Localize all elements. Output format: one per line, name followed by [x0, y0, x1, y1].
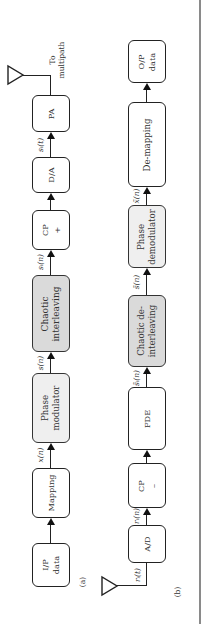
block-demapping: De-mapping: [128, 102, 166, 187]
panel-a-label: (a): [78, 577, 87, 587]
block-label: Chaotic de- interleaving: [136, 305, 158, 358]
arrow-line: [50, 448, 51, 468]
arrow-line: [50, 357, 51, 373]
block-pa: PA: [32, 95, 70, 132]
arrowhead-up-icon: [47, 193, 55, 200]
signal-label-si-t: sᵢ(t): [36, 138, 45, 152]
signal-label-ri-t: rᵢ(t): [133, 568, 142, 582]
block-label: Mapping: [46, 475, 56, 512]
block-fde: FDE: [128, 387, 166, 450]
receive-antenna-icon: [100, 575, 120, 597]
arrowhead-up-icon: [143, 508, 151, 515]
arrow-line: [146, 88, 147, 102]
antenna-feed-line: [116, 585, 147, 586]
arrowhead-up-icon: [47, 352, 55, 359]
signal-label-s-tilde-i-n: s̃ᵢ(n): [132, 370, 141, 386]
arrowhead-up-icon: [143, 187, 151, 194]
signal-label-x-tilde-n: x̃(n): [132, 189, 141, 204]
block-chaotic-interleaving: Chaotic interleaving: [32, 275, 70, 352]
signal-label-s-n: s(n): [36, 356, 45, 371]
signal-label-si-n: sᵢ(n): [36, 254, 45, 270]
block-cp-remove: CP –: [128, 463, 166, 508]
block-label: CP –: [135, 480, 159, 492]
block-phase-demodulator: Phase demodulator: [128, 205, 166, 268]
block-mapping: Mapping: [32, 468, 70, 518]
block-cp-add: CP +: [32, 210, 70, 250]
signal-label-x-n: x(n): [36, 448, 45, 463]
block-op-data: O/P data: [128, 40, 166, 83]
arrow-line: [50, 523, 51, 543]
arrowhead-up-icon: [47, 132, 55, 139]
arrow-line: [50, 255, 51, 275]
page-edge-rule: [199, 0, 201, 624]
arrow-line: [50, 137, 51, 157]
block-label: D/A: [46, 167, 56, 182]
signal-label-s-tilde-n: s̃(n): [132, 275, 141, 290]
block-label: CP +: [39, 224, 63, 236]
block-label: I/P data: [40, 556, 62, 574]
arrow-line: [146, 273, 147, 295]
arrowhead-up-icon: [143, 268, 151, 275]
arrowhead-up-icon: [143, 83, 151, 90]
block-label: De-mapping: [142, 118, 152, 171]
arrowhead-up-icon: [47, 250, 55, 257]
block-label: Phase demodulator: [136, 209, 158, 265]
to-multipath-label: To multipath: [48, 42, 66, 79]
block-chaotic-deinterleaving: Chaotic de- interleaving: [128, 295, 166, 367]
block-label: Phase modulator: [40, 386, 62, 431]
block-label: PA: [46, 108, 56, 119]
block-label: A/D: [142, 536, 152, 551]
antenna-feed-line: [23, 75, 51, 76]
block-da: D/A: [32, 157, 70, 193]
block-phase-modulator: Phase modulator: [32, 373, 70, 443]
antenna-to-ad-line: [146, 563, 147, 586]
arrowhead-up-icon: [47, 518, 55, 525]
arrowhead-up-icon: [143, 367, 151, 374]
panel-b-label: (b): [173, 587, 182, 598]
signal-label-ri-n: rᵢ(n): [132, 508, 141, 524]
block-label: Chaotic interleaving: [40, 286, 62, 341]
arrowhead-up-icon: [143, 450, 151, 457]
block-label: O/P data: [136, 52, 158, 70]
block-ip-data: I/P data: [32, 543, 70, 587]
block-ad: A/D: [128, 525, 166, 563]
arrow-line: [146, 372, 147, 387]
arrowhead-up-icon: [47, 443, 55, 450]
block-label: FDE: [142, 409, 152, 427]
